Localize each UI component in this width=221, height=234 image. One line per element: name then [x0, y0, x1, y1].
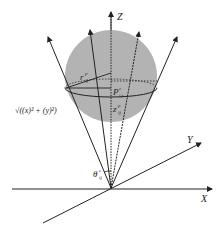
svg-text:p: p [117, 103, 121, 108]
z-axis-label: Z [117, 11, 123, 22]
angle-label: θ c ij [93, 168, 102, 180]
angle-arc [104, 171, 111, 172]
svg-text:c: c [99, 168, 102, 173]
svg-text:p: p [84, 71, 88, 76]
y-axis [43, 143, 201, 223]
svg-text:z: z [112, 104, 117, 114]
distance-label: √((x)² + (y)²) [15, 106, 57, 115]
svg-text:ij: ij [99, 175, 102, 180]
y-axis-label: Y [187, 134, 194, 145]
svg-text:r: r [80, 72, 84, 82]
x-axis-label: X [200, 193, 208, 204]
svg-text:θ: θ [93, 169, 98, 179]
svg-text:P: P [112, 87, 119, 97]
diagram-canvas: Z Y X r p ij P c i,t z p ij √((x)² + (y)… [0, 0, 221, 234]
